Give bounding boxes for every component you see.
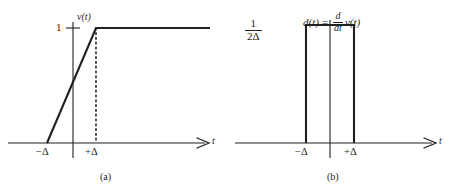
x-axis-label-t-b: t (439, 136, 442, 146)
derivative-operand-label: v(t) (345, 16, 360, 28)
panel-a-plot (0, 0, 227, 176)
curve-label-vt-a: v(t) (77, 12, 91, 22)
x-tick-label-minus-delta-a: −Δ (36, 147, 49, 158)
fraction-denominator: 2Δ (245, 30, 262, 43)
x-tick-label-plus-delta-a: +Δ (85, 147, 98, 158)
fraction-numerator: 1 (245, 18, 262, 30)
x-axis-label-t-a: t (212, 136, 215, 146)
derivative-fn-label: d(t) (303, 16, 319, 28)
fraction-one-over-two-delta: 1 2Δ (245, 18, 262, 42)
panel-b-derivative-pulse: 1 2Δ d(t)=ddtv(t) −Δ +Δ t (b) (227, 0, 454, 196)
x-tick-label-plus-delta-b: +Δ (344, 147, 357, 158)
figure-root: 1 v(t) −Δ +Δ t (a) 1 2Δ d(t)=ddtv(t (0, 0, 454, 196)
panel-caption-a: (a) (100, 172, 111, 182)
derivative-operator-fraction: ddt (333, 11, 343, 33)
derivative-equals-sign: = (322, 16, 328, 28)
panel-caption-b: (b) (327, 172, 339, 182)
ramp-curve-a (47, 28, 210, 143)
derivative-operator-denominator: dt (333, 22, 343, 34)
derivative-expression: d(t)=ddtv(t) (303, 16, 360, 28)
derivative-operator-numerator: d (333, 11, 343, 22)
curve-label-derivative-expression-b: d(t)=ddtv(t) (303, 11, 360, 33)
y-tick-label-one-over-two-delta-b: 1 2Δ (245, 18, 262, 42)
panel-a-ramp-function: 1 v(t) −Δ +Δ t (a) (0, 0, 227, 196)
y-tick-label-one-a: 1 (56, 22, 62, 33)
x-tick-label-minus-delta-b: −Δ (295, 147, 308, 158)
